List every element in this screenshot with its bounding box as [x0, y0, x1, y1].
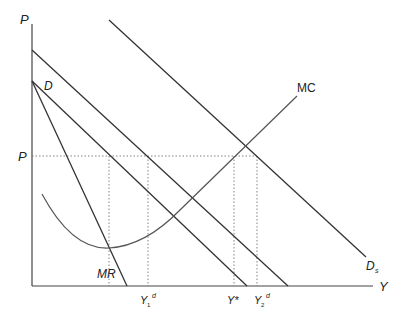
demand-curve-d: [32, 81, 247, 286]
mr-label: MR: [97, 267, 116, 281]
tick-y1d: Y 1 d: [140, 292, 157, 308]
dotted-guides: [32, 156, 257, 286]
x-axis-label: Y: [379, 279, 389, 294]
svg-text:d: d: [152, 292, 157, 299]
svg-text:s: s: [375, 267, 379, 274]
svg-text:d: d: [266, 292, 271, 299]
svg-text:2: 2: [261, 302, 265, 308]
svg-text:D: D: [366, 259, 375, 273]
mc-label: MC: [297, 81, 316, 95]
svg-text:1: 1: [147, 302, 151, 308]
y-axis-label: P: [20, 12, 29, 27]
economics-diagram: P Y P D MR MC D s Y 1 d Y* Y 2 d: [0, 0, 405, 320]
demand-curve-ds: [109, 20, 366, 257]
ds-label: D s: [366, 259, 379, 274]
tick-y2d: Y 2 d: [254, 292, 271, 308]
demand-label: D: [44, 79, 53, 93]
demand-curve-top: [32, 50, 288, 286]
marginal-cost-curve: [42, 96, 297, 248]
marginal-revenue-curve: [32, 81, 127, 286]
price-level-label: P: [18, 149, 27, 164]
tick-ystar: Y*: [227, 294, 239, 306]
svg-text:Y*: Y*: [227, 294, 239, 306]
